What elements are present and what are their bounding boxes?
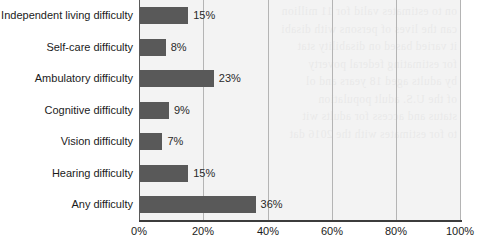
category-label: Any difficulty <box>0 198 133 210</box>
category-label: Vision difficulty <box>0 135 133 147</box>
bar-row: Vision difficulty 7% <box>0 126 479 158</box>
xtick-label: 100% <box>438 225 479 237</box>
xtick-label: 60% <box>310 225 354 237</box>
bar-row: Ambulatory difficulty 23% <box>0 63 479 95</box>
x-axis-line <box>139 220 462 222</box>
bar-row: Independent living difficulty 15% <box>0 0 479 32</box>
bar-value-label: 36% <box>261 198 283 210</box>
bar <box>140 7 188 24</box>
category-label: Hearing difficulty <box>0 167 133 179</box>
bar-value-label: 7% <box>167 135 183 147</box>
bar-row: Cognitive difficulty 9% <box>0 95 479 127</box>
bar-value-label: 8% <box>171 41 187 53</box>
bar-row: Any difficulty 36% <box>0 189 479 221</box>
bar <box>140 165 188 182</box>
bar-value-label: 9% <box>174 104 190 116</box>
xtick-label: 0% <box>117 225 161 237</box>
bar <box>140 70 214 87</box>
bar-row: Self-care difficulty 8% <box>0 32 479 64</box>
bar-row: Hearing difficulty 15% <box>0 158 479 190</box>
bar-value-label: 23% <box>219 72 241 84</box>
bar <box>140 133 162 150</box>
bar <box>140 196 256 213</box>
xtick-label: 20% <box>181 225 225 237</box>
bar-value-label: 15% <box>193 9 215 21</box>
category-label: Cognitive difficulty <box>0 104 133 116</box>
category-label: Ambulatory difficulty <box>0 72 133 84</box>
category-label: Self-care difficulty <box>0 41 133 53</box>
bar-value-label: 15% <box>193 167 215 179</box>
bar <box>140 39 166 56</box>
xtick-label: 40% <box>246 225 290 237</box>
horizontal-bar-chart: on to estimates valid for 11 million can… <box>0 0 479 242</box>
category-label: Independent living difficulty <box>0 9 133 21</box>
xtick-label: 80% <box>374 225 418 237</box>
bar <box>140 102 169 119</box>
y-axis-line <box>139 0 140 221</box>
